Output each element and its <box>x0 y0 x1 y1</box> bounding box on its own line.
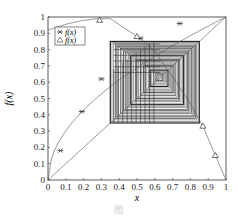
y-tick-label: 0.5 <box>34 94 46 104</box>
figure-caption: 图 <box>0 203 238 216</box>
x-tick-label: 0.2 <box>78 182 89 192</box>
y-tick-label: 0.8 <box>34 45 46 55</box>
triangle-marker <box>212 153 218 158</box>
x-tick-label: 0.1 <box>60 182 71 192</box>
x-tick-label: 0.7 <box>167 182 179 192</box>
y-tick-label: 0 <box>41 175 46 185</box>
x-tick-label: 0.9 <box>203 182 215 192</box>
y-tick-label: 0.9 <box>34 28 46 38</box>
legend-label: f(x) <box>65 36 76 45</box>
y-tick-label: 1 <box>41 12 46 22</box>
x-tick-label: 0.4 <box>114 182 126 192</box>
x-tick-label: 0 <box>46 182 51 192</box>
y-tick-label: 0.1 <box>34 159 45 169</box>
y-axis-label: f(x) <box>3 91 15 106</box>
x-tick-label: 1 <box>224 182 229 192</box>
x-tick-label: 0.6 <box>149 182 161 192</box>
y-tick-label: 0.6 <box>34 77 46 87</box>
triangle-marker <box>134 34 140 39</box>
x-tick-label: 0.5 <box>131 182 143 192</box>
chart: 00.10.20.30.40.50.60.70.80.9100.10.20.30… <box>0 0 238 216</box>
triangle-marker <box>200 123 206 128</box>
x-axis-label: x <box>134 192 140 203</box>
x-tick-label: 0.8 <box>185 182 197 192</box>
plot-area: 00.10.20.30.40.50.60.70.80.9100.10.20.30… <box>0 0 238 216</box>
y-tick-label: 0.2 <box>34 142 45 152</box>
x-tick-label: 0.3 <box>96 182 108 192</box>
y-tick-label: 0.4 <box>34 110 46 120</box>
y-tick-label: 0.7 <box>34 61 46 71</box>
triangle-marker <box>97 17 103 22</box>
y-tick-label: 0.3 <box>34 126 46 136</box>
